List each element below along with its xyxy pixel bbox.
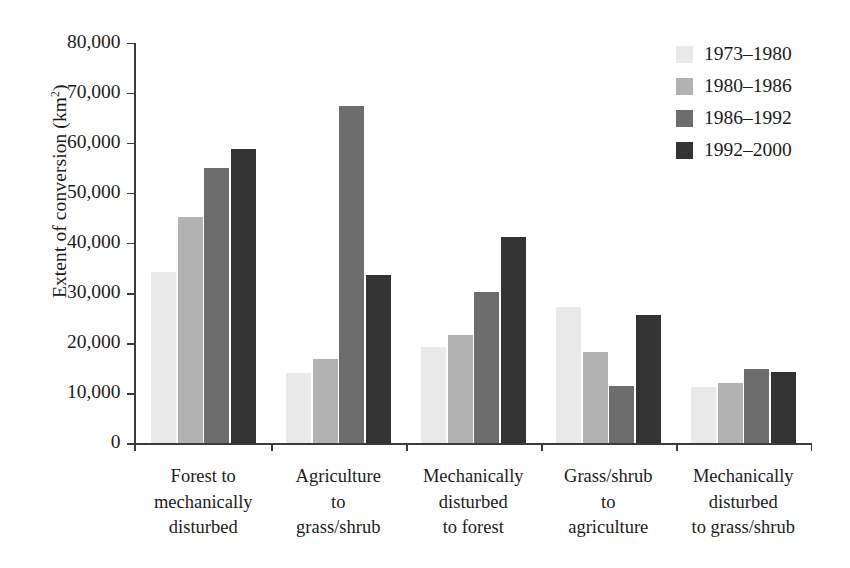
bar-group xyxy=(421,43,526,444)
y-axis-tick: 60,000 xyxy=(127,143,135,145)
bar xyxy=(178,217,203,443)
legend: 1973–19801980–19861986–19921992–2000 xyxy=(676,38,792,166)
bar-group xyxy=(556,43,661,444)
bar xyxy=(313,359,338,443)
legend-item-label: 1980–1986 xyxy=(704,75,792,97)
x-axis-tick xyxy=(134,443,136,451)
x-axis-line xyxy=(134,443,812,445)
y-axis-tick-label: 10,000 xyxy=(11,381,121,403)
y-axis-tick-label: 60,000 xyxy=(11,131,121,153)
x-axis-tick xyxy=(406,443,408,451)
y-axis-tick-label: 30,000 xyxy=(11,281,121,303)
y-axis-tick: 20,000 xyxy=(127,343,135,345)
x-axis-tick xyxy=(541,443,543,451)
y-axis-tick: 80,000 xyxy=(127,43,135,45)
x-axis-tick xyxy=(811,443,813,451)
bar xyxy=(636,315,661,444)
legend-item: 1980–1986 xyxy=(676,70,792,102)
bar xyxy=(421,347,446,444)
y-axis-tick: 10,000 xyxy=(127,393,135,395)
bar-chart: Extent of conversion (km2) 80,00070,0006… xyxy=(0,0,850,568)
legend-item-label: 1973–1980 xyxy=(704,43,792,65)
y-axis-line xyxy=(134,43,136,444)
legend-item: 1986–1992 xyxy=(676,102,792,134)
bar xyxy=(744,369,769,443)
legend-item-label: 1992–2000 xyxy=(704,139,792,161)
legend-swatch-icon xyxy=(676,78,693,95)
legend-swatch-icon xyxy=(676,46,693,63)
bar xyxy=(718,383,743,443)
legend-item: 1992–2000 xyxy=(676,134,792,166)
x-axis-tick xyxy=(271,443,273,451)
y-axis-tick-label: 20,000 xyxy=(11,331,121,353)
x-axis-group-label-line: to grass/shrub xyxy=(656,515,831,541)
y-axis-tick: 0 xyxy=(127,443,135,445)
bar xyxy=(609,386,634,444)
x-axis-group-label-line: Mechanically xyxy=(656,464,831,490)
legend-item-label: 1986–1992 xyxy=(704,107,792,129)
bar xyxy=(204,168,229,443)
x-axis-tick xyxy=(676,443,678,451)
y-axis-tick-label: 80,000 xyxy=(11,31,121,53)
y-axis-tick-label: 0 xyxy=(11,431,121,453)
bar xyxy=(286,373,311,443)
y-axis-tick-label: 70,000 xyxy=(11,81,121,103)
bar xyxy=(366,275,391,443)
bar xyxy=(231,149,256,443)
y-axis-tick: 50,000 xyxy=(127,193,135,195)
bar xyxy=(556,307,581,444)
legend-swatch-icon xyxy=(676,110,693,127)
y-axis-tick-label: 50,000 xyxy=(11,181,121,203)
legend-swatch-icon xyxy=(676,142,693,159)
bar xyxy=(448,335,473,443)
x-axis-group-label: Mechanicallydisturbedto grass/shrub xyxy=(656,464,831,541)
y-axis-tick: 70,000 xyxy=(127,93,135,95)
bar-group xyxy=(286,43,391,444)
y-axis-tick: 30,000 xyxy=(127,293,135,295)
x-axis-group-label-line: disturbed xyxy=(656,490,831,516)
bar xyxy=(339,106,364,443)
y-axis-tick: 40,000 xyxy=(127,243,135,245)
bar xyxy=(474,292,499,443)
legend-item: 1973–1980 xyxy=(676,38,792,70)
bar xyxy=(771,372,796,444)
bar xyxy=(501,237,526,443)
y-axis-tick-label: 40,000 xyxy=(11,231,121,253)
bar xyxy=(691,387,716,444)
bar-group xyxy=(151,43,256,444)
bar xyxy=(151,272,176,443)
bar xyxy=(583,352,608,444)
